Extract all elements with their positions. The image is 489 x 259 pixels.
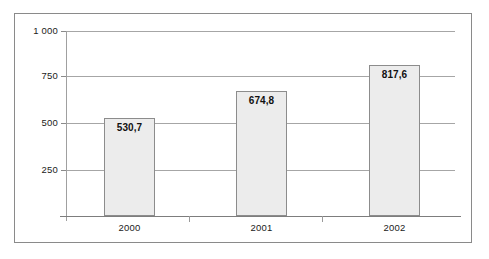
value-axis-line bbox=[66, 31, 67, 221]
value-axis-label-250: 250 bbox=[6, 164, 58, 175]
gridline-1000 bbox=[66, 31, 455, 32]
value-axis-label-1000: 1 000 bbox=[6, 25, 58, 36]
value-axis-label-750: 750 bbox=[6, 70, 58, 81]
category-tick-separator-2 bbox=[322, 216, 323, 222]
value-tick-1000 bbox=[61, 31, 66, 32]
bar-2002[interactable] bbox=[369, 65, 420, 216]
value-tick-500 bbox=[61, 123, 66, 124]
bar-2001[interactable] bbox=[236, 91, 287, 216]
bar-value-2002: 817,6 bbox=[369, 69, 420, 80]
category-label-2001: 2001 bbox=[231, 222, 292, 233]
bar-value-2001: 674,8 bbox=[236, 95, 287, 106]
bar-chart-figure: 1 000 750 500 250 530,7 674,8 817,6 2000… bbox=[0, 0, 489, 259]
bar-value-2000: 530,7 bbox=[104, 122, 155, 133]
category-label-2002: 2002 bbox=[364, 222, 425, 233]
value-tick-250 bbox=[61, 170, 66, 171]
category-tick-separator-1 bbox=[189, 216, 190, 222]
value-axis-label-500: 500 bbox=[6, 117, 58, 128]
value-tick-750 bbox=[61, 76, 66, 77]
category-axis-line bbox=[60, 216, 461, 217]
category-label-2000: 2000 bbox=[99, 222, 160, 233]
value-axis-labels: 1 000 750 500 250 bbox=[2, 0, 58, 259]
